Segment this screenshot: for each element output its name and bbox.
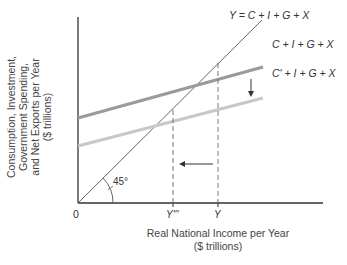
shift-left-arrowhead [179, 161, 185, 167]
x-axis-label: Real National Income per Year ($ trillio… [118, 227, 318, 253]
shift-down-arrowhead [248, 91, 254, 97]
forty-five-line-label: Y = C + I + G + X [229, 9, 309, 21]
y-axis-label-line: Government Spending, [17, 42, 29, 192]
ae-original-label: C + I + G + X [272, 38, 334, 50]
x-axis-label-line: ($ trillions) [118, 240, 318, 253]
ae-original-line [78, 67, 263, 118]
angle-label: 45° [113, 176, 128, 187]
angle-arc [103, 178, 113, 203]
y-axis-label-line: and Net Exports per Year [29, 42, 41, 192]
ae-shifted-line [78, 98, 263, 146]
tick-label-y-new: Y''' [166, 209, 178, 220]
y-axis-label-line: Consumption, Investment, [5, 42, 17, 192]
origin-label: 0 [73, 208, 79, 220]
ae-shifted-label: C' + I + G + X [272, 67, 336, 79]
x-axis-label-line: Real National Income per Year [118, 227, 318, 240]
y-axis-label-line: ($ trillions) [41, 42, 53, 192]
tick-label-y: Y [214, 209, 221, 220]
